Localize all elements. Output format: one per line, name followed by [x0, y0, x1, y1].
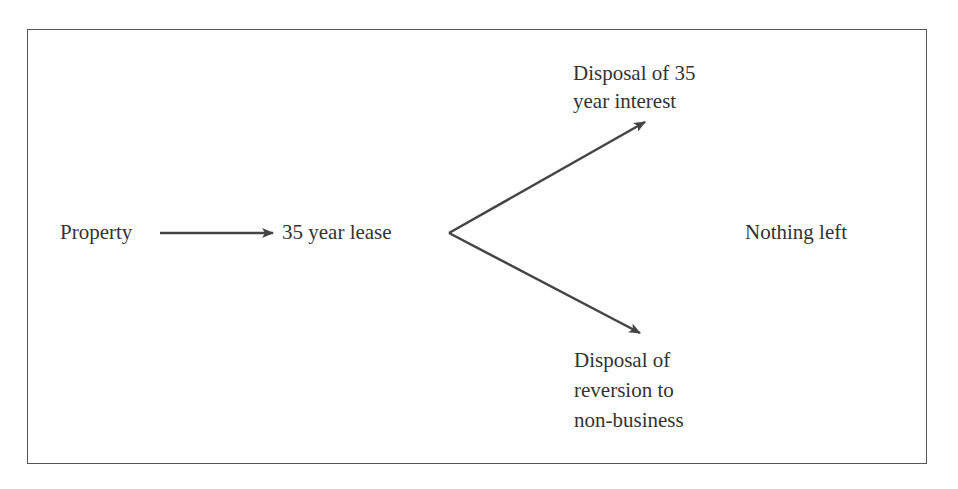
node-property: Property — [60, 220, 132, 245]
arrow-lease-to-disposal-reversion — [449, 233, 640, 333]
arrow-lease-to-disposal-interest — [449, 122, 645, 233]
node-nothing-left: Nothing left — [745, 220, 847, 245]
node-disposal-reversion-line2: reversion to — [574, 378, 674, 403]
node-lease: 35 year lease — [282, 220, 392, 245]
node-disposal-interest-line1: Disposal of 35 — [573, 61, 696, 86]
node-disposal-reversion-line1: Disposal of — [574, 348, 670, 373]
node-disposal-interest-line2: year interest — [573, 89, 676, 114]
node-disposal-reversion-line3: non-business — [574, 408, 684, 433]
